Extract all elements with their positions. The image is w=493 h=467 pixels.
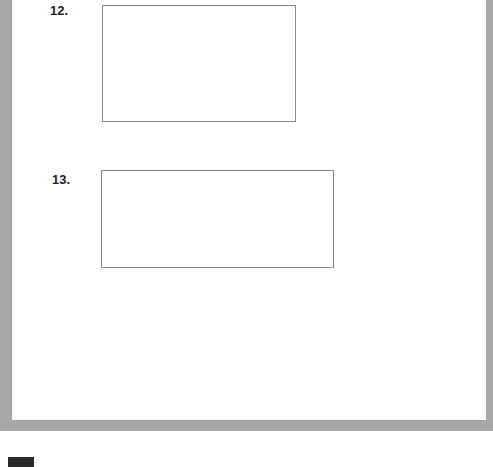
question-12-answer-box[interactable] [102, 5, 296, 122]
question-13-number: 13. [52, 172, 70, 187]
section-tab-marker [8, 457, 34, 467]
question-12-number: 12. [50, 3, 68, 18]
question-13-answer-box[interactable] [101, 170, 334, 268]
